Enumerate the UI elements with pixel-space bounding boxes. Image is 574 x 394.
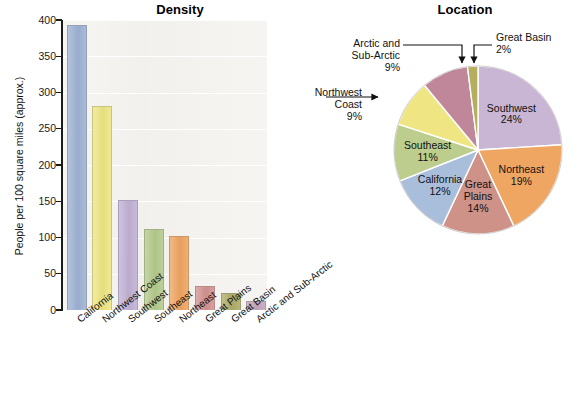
callout-northwest-coast: Northwest Coast 9% <box>315 87 362 122</box>
y-tick-200 <box>56 164 62 165</box>
callout-arctic-line3: 9% <box>352 62 400 74</box>
pie-label-line: 24% <box>461 114 561 126</box>
y-tick-label-0: 0 <box>28 305 56 316</box>
y-tick-400 <box>56 19 62 20</box>
figure-root: Density People per 100 square miles (app… <box>0 0 574 394</box>
pie-label-line: 11% <box>378 152 478 164</box>
y-tick-label-250: 250 <box>28 123 56 134</box>
y-axis-labels: 050100150200250300350400 <box>22 0 56 394</box>
y-tick-100 <box>56 237 62 238</box>
plot-area <box>62 20 267 310</box>
density-bar-chart: Density People per 100 square miles (app… <box>0 0 290 394</box>
y-tick-label-350: 350 <box>28 51 56 62</box>
y-tick-label-300: 300 <box>28 87 56 98</box>
location-pie-chart: Location Southwest24%Northeast19%GreatPl… <box>290 0 574 394</box>
y-tick-label-100: 100 <box>28 232 56 243</box>
callout-great-basin-line2: 2% <box>496 44 551 56</box>
bar-california <box>67 25 87 310</box>
pie-label-line: California <box>390 174 490 186</box>
callout-nw-line2: Coast <box>315 99 362 111</box>
leader-line-arctic <box>403 45 462 63</box>
y-tick-label-150: 150 <box>28 196 56 207</box>
pie-label-line: Southeast <box>378 140 478 152</box>
y-tick-300 <box>56 92 62 93</box>
y-tick-label-50: 50 <box>28 268 56 279</box>
callout-nw-line3: 9% <box>315 111 362 123</box>
pie-label-line: 14% <box>428 203 528 215</box>
y-tick-50 <box>56 273 62 274</box>
y-tick-0 <box>56 309 62 310</box>
y-tick-label-200: 200 <box>28 160 56 171</box>
y-tick-150 <box>56 201 62 202</box>
pie-label-southeast: Southeast11% <box>378 140 478 164</box>
bars-layer <box>62 20 267 310</box>
bar-northwest-coast <box>92 106 112 310</box>
callout-great-basin: Great Basin 2% <box>496 32 551 56</box>
callout-arctic-sub-arctic: Arctic and Sub-Arctic 9% <box>352 38 400 73</box>
y-tick-250 <box>56 128 62 129</box>
leader-line-great-basin <box>474 45 492 63</box>
y-tick-350 <box>56 56 62 57</box>
pie-label-southwest: Southwest24% <box>461 103 561 127</box>
callout-arctic-line2: Sub-Arctic <box>352 50 400 62</box>
pie-label-california: California12% <box>390 174 490 198</box>
bar-chart-title: Density <box>120 2 240 17</box>
pie-label-line: 12% <box>390 186 490 198</box>
y-tick-label-400: 400 <box>28 15 56 26</box>
